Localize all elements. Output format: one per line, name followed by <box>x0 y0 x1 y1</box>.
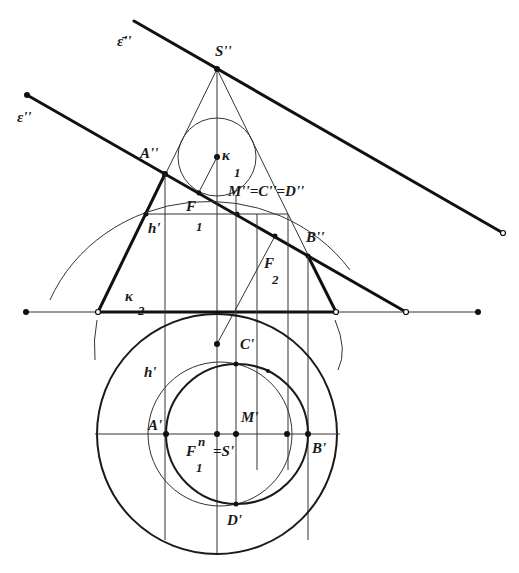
label-C1: C' <box>240 336 254 352</box>
label-kappa2: κ <box>125 288 134 304</box>
eps-h-point <box>235 212 240 217</box>
axis-right-point <box>475 309 481 315</box>
label-S1: =S' <box>213 443 234 459</box>
point-C1 <box>234 362 239 367</box>
label-F2-sub: 2 <box>271 272 279 287</box>
point-S1 <box>214 431 220 437</box>
label-eps-bar: ε̄'' <box>117 33 132 49</box>
apex-S2 <box>214 66 220 72</box>
geometry-diagram: ε̄'' ε'' S'' A'' κ 1 M''=C''=D'' F 1 h' … <box>0 0 519 573</box>
point-h-top <box>284 431 290 437</box>
sphere-kappa2-arc <box>50 201 350 300</box>
label-F2: F <box>263 255 274 271</box>
axis-left-point <box>23 309 29 315</box>
point-M1 <box>233 431 239 437</box>
label-h1: h' <box>144 364 157 380</box>
label-D1: D' <box>226 512 242 528</box>
label-M2C2D2: M''=C''=D'' <box>227 183 304 199</box>
label-F1: F <box>185 198 196 214</box>
kappa1-radius <box>199 157 217 192</box>
point-B1 <box>305 431 311 437</box>
label-M1: M' <box>240 409 259 425</box>
point-A1 <box>163 431 169 437</box>
point-D1 <box>234 502 239 507</box>
label-A1: A' <box>147 417 162 433</box>
point-ellipse-tangent <box>266 369 270 373</box>
label-Fn-sub: 1 <box>196 460 203 475</box>
label-Fn: F <box>185 443 196 459</box>
base-left-point <box>96 310 101 315</box>
label-F1-sub: 1 <box>196 219 203 234</box>
eps-start-point <box>24 92 30 98</box>
eps-axis-point <box>404 310 409 315</box>
point-M2 <box>197 191 202 196</box>
eps-bar-endpoint <box>501 231 506 236</box>
label-B2: B'' <box>305 229 324 245</box>
label-Fn-sup: n <box>198 434 205 449</box>
base-right-point <box>334 310 339 315</box>
kappa2-left-lower-arc <box>94 320 97 360</box>
point-C1-aux <box>214 341 220 347</box>
label-S2: S'' <box>215 43 232 59</box>
label-A2: A'' <box>139 145 158 161</box>
label-kappa2-sub: 2 <box>137 303 145 318</box>
label-kappa1-sub: 1 <box>234 165 241 180</box>
kappa2-lower-arc <box>335 320 342 370</box>
label-kappa1: κ <box>222 147 231 163</box>
f2-point <box>273 234 278 239</box>
label-B1: B' <box>311 440 326 456</box>
f2-radius <box>217 236 275 344</box>
label-eps: ε'' <box>17 109 32 125</box>
label-h2: h' <box>148 220 161 236</box>
